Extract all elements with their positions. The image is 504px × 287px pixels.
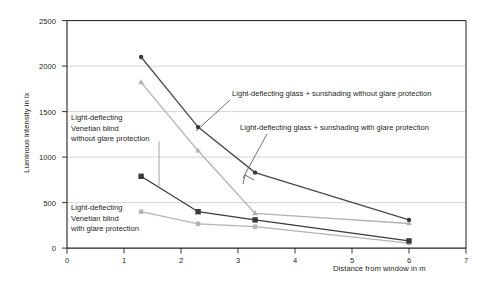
- y-tick-label-2500: 2500: [26, 17, 56, 26]
- annotation-line: Venetian blind: [71, 124, 150, 135]
- y-tick-label-2000: 2000: [26, 62, 56, 71]
- annotation-glass-without-glare: Light-deflecting glass + sunshading with…: [232, 89, 431, 100]
- annotation-line: Light-deflecting: [71, 113, 150, 124]
- y-tick-label-0: 0: [26, 244, 56, 253]
- annotation-blind-without-glare: Light-deflecting Venetian blind without …: [71, 113, 150, 145]
- y-axis-title: Luminous intensity in lx: [22, 63, 31, 203]
- annotation-line: Light-deflecting glass + sunshading with…: [240, 123, 429, 134]
- annotation-leader-lines: [159, 100, 267, 186]
- y-axis-ticks: [62, 21, 67, 249]
- x-axis-title: Distance from window in m: [333, 264, 426, 273]
- annotation-blind-with-glare: Light-deflecting Venetian blind with gla…: [71, 203, 139, 235]
- x-tick-label-3: 3: [228, 256, 248, 265]
- x-tick-label-0: 0: [57, 256, 77, 265]
- x-tick-label-4: 4: [285, 256, 305, 265]
- x-tick-label-5: 5: [342, 256, 362, 265]
- series-glass-with-glare: [138, 79, 412, 225]
- annotation-line: Venetian blind: [71, 214, 139, 225]
- gridlines: [67, 21, 466, 203]
- annotation-line: without glare protection: [71, 134, 150, 145]
- x-tick-label-1: 1: [114, 256, 134, 265]
- y-tick-label-500: 500: [26, 199, 56, 208]
- annotation-line: Light-deflecting: [71, 203, 139, 214]
- luminous-intensity-chart: Luminous intensity in lx Distance from w…: [0, 0, 504, 287]
- series-glass-without-glare: [139, 55, 411, 222]
- x-tick-label-7: 7: [456, 256, 476, 265]
- x-tick-label-2: 2: [171, 256, 191, 265]
- annotation-line: Light-deflecting glass + sunshading with…: [232, 89, 431, 100]
- y-tick-label-1500: 1500: [26, 108, 56, 117]
- annotation-glass-with-glare: Light-deflecting glass + sunshading with…: [240, 123, 429, 134]
- x-axis-ticks: [67, 248, 466, 253]
- annotation-line: with glare protection: [71, 224, 139, 235]
- y-tick-label-1000: 1000: [26, 153, 56, 162]
- x-tick-label-6: 6: [399, 256, 419, 265]
